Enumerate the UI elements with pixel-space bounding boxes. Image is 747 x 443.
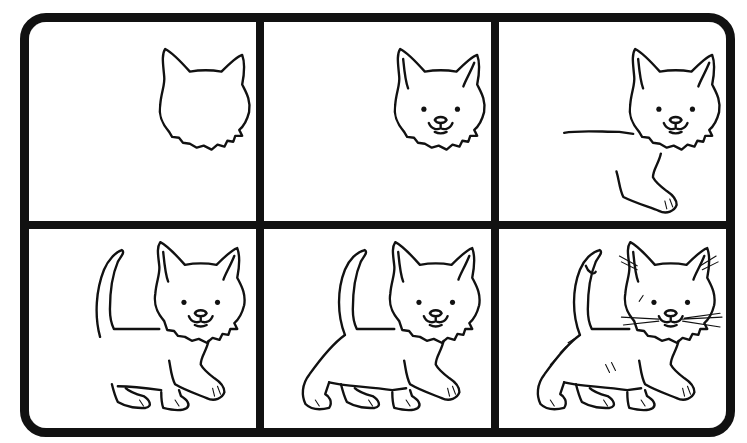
step-5-panel [264, 229, 491, 428]
kitten-step-6-illustration [499, 229, 726, 428]
kitten-step-3-illustration [499, 22, 726, 221]
kitten-step-5-illustration [264, 229, 491, 428]
step-2-panel [264, 22, 491, 221]
step-4-panel [29, 229, 256, 428]
kitten-step-2-illustration [264, 22, 491, 221]
step-6-panel [499, 229, 726, 428]
steps-grid [29, 22, 726, 428]
kitten-step-4-illustration [29, 229, 256, 428]
drawing-guide-frame [20, 13, 735, 437]
step-3-panel [499, 22, 726, 221]
kitten-step-1-illustration [29, 22, 256, 221]
step-1-panel [29, 22, 256, 221]
